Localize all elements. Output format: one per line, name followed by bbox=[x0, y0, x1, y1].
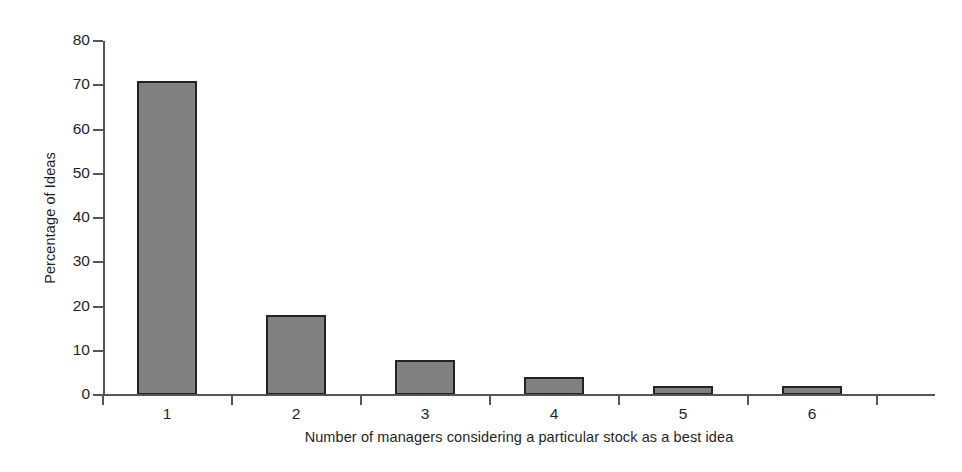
x-axis-tick-label: 3 bbox=[405, 405, 445, 423]
bar bbox=[395, 360, 455, 395]
y-axis-tick-mark bbox=[93, 217, 103, 219]
x-axis-tick-label: 5 bbox=[663, 405, 703, 423]
x-axis-line bbox=[103, 394, 935, 396]
bar bbox=[524, 377, 584, 395]
y-axis-tick-mark bbox=[93, 129, 103, 131]
x-axis-tick-mark bbox=[231, 396, 233, 405]
x-axis-tick-label: 6 bbox=[792, 405, 832, 423]
y-axis-tick-label: 0 bbox=[30, 386, 90, 402]
x-axis-tick-mark bbox=[876, 396, 878, 405]
y-axis-tick-mark bbox=[93, 261, 103, 263]
y-axis-tick-label: 60 bbox=[30, 121, 90, 137]
x-axis-tick-mark bbox=[618, 396, 620, 405]
y-axis-tick-label: 80 bbox=[30, 32, 90, 48]
x-axis-tick-label: 2 bbox=[276, 405, 316, 423]
x-axis-tick-label: 1 bbox=[147, 405, 187, 423]
bar-chart: Percentage of Ideas 01020304050607080 12… bbox=[0, 0, 962, 472]
x-axis-tick-mark bbox=[360, 396, 362, 405]
x-axis-tick-mark bbox=[747, 396, 749, 405]
y-axis-tick-label: 20 bbox=[30, 298, 90, 314]
x-axis-tick-label: 4 bbox=[534, 405, 574, 423]
y-axis-tick-mark bbox=[93, 350, 103, 352]
y-axis-tick-mark bbox=[93, 173, 103, 175]
x-axis-tick-mark bbox=[102, 396, 104, 405]
y-axis-tick-mark bbox=[93, 306, 103, 308]
x-axis-tick-mark bbox=[489, 396, 491, 405]
y-axis-tick-label: 10 bbox=[30, 342, 90, 358]
y-axis-line bbox=[103, 41, 105, 396]
x-axis-title: Number of managers considering a particu… bbox=[103, 428, 935, 446]
bar bbox=[266, 315, 326, 395]
y-axis-tick-label: 70 bbox=[30, 76, 90, 92]
y-axis-tick-label: 40 bbox=[30, 209, 90, 225]
y-axis-tick-mark bbox=[93, 84, 103, 86]
bar bbox=[137, 81, 197, 395]
y-axis-tick-label: 30 bbox=[30, 253, 90, 269]
y-axis-tick-mark bbox=[93, 40, 103, 42]
y-axis-tick-label: 50 bbox=[30, 165, 90, 181]
